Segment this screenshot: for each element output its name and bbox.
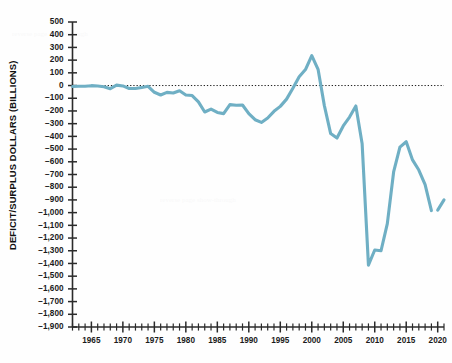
y-tick-label--900: −900 (45, 195, 64, 204)
x-tick-label-1985: 1985 (208, 336, 227, 345)
x-tick-label-1975: 1975 (145, 336, 164, 345)
x-tick-label-2020: 2020 (429, 336, 448, 345)
y-tick-label-500: 500 (50, 17, 64, 26)
y-tick-label--800: −800 (45, 182, 64, 191)
series-path-segment-0 (73, 56, 432, 266)
y-tick-label--1100: −1,100 (38, 221, 64, 230)
y-tick-label--600: −600 (45, 157, 64, 166)
y-tick-label--700: −700 (45, 170, 64, 179)
y-tick-label--1600: −1,600 (38, 284, 64, 293)
y-axis-tick-labels: 5004003002001000−100−200−300−400−500−600… (38, 17, 64, 331)
series-path-segment-1 (438, 200, 444, 210)
x-tick-label-1990: 1990 (240, 336, 259, 345)
y-tick-label-0: 0 (59, 81, 64, 90)
y-tick-label--400: −400 (45, 132, 64, 141)
x-tick-label-1965: 1965 (82, 336, 101, 345)
y-tick-label--300: −300 (45, 119, 64, 128)
x-tick-label-2015: 2015 (397, 336, 416, 345)
y-tick-label--200: −200 (45, 106, 64, 115)
y-tick-label-400: 400 (50, 30, 64, 39)
y-axis-title: DEFICIT/SURPLUS DOLLARS (BILLIONS) (7, 61, 18, 250)
y-tick-label--100: −100 (45, 93, 64, 102)
y-tick-label--1200: −1,200 (38, 233, 64, 242)
data-series-deficit-surplus (73, 56, 445, 266)
y-tick-label-300: 300 (50, 43, 64, 52)
y-tick-label--1000: −1,000 (38, 208, 64, 217)
x-tick-label-1980: 1980 (177, 336, 196, 345)
x-tick-label-2010: 2010 (366, 336, 385, 345)
y-tick-label-100: 100 (50, 68, 64, 77)
y-tick-label--1500: −1,500 (38, 271, 64, 280)
deficit-surplus-chart: reverse page show-through reverse page s… (0, 0, 452, 363)
y-tick-label--1900: −1,900 (38, 322, 64, 331)
chart-canvas: 5004003002001000−100−200−300−400−500−600… (0, 0, 452, 363)
y-tick-label--1800: −1,800 (38, 309, 64, 318)
x-tick-label-1995: 1995 (271, 336, 290, 345)
y-tick-label--1700: −1,700 (38, 297, 64, 306)
y-tick-label--1400: −1,400 (38, 259, 64, 268)
x-tick-label-2005: 2005 (334, 336, 353, 345)
x-tick-label-2000: 2000 (303, 336, 322, 345)
x-tick-label-1970: 1970 (114, 336, 133, 345)
y-tick-label-200: 200 (50, 55, 64, 64)
y-tick-label--500: −500 (45, 144, 64, 153)
y-tick-label--1300: −1,300 (38, 246, 64, 255)
x-axis-tick-labels: 1965197019751980198519901995200020052010… (82, 336, 447, 345)
